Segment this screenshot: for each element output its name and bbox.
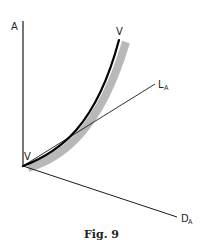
- label-v-bottom: V: [24, 151, 31, 162]
- diagram-figure: A V V L A D A: [0, 0, 203, 247]
- label-a: A: [11, 21, 18, 32]
- shaded-band: [28, 42, 126, 168]
- label-da-sub: A: [188, 218, 193, 226]
- label-la-sub: A: [164, 84, 169, 92]
- label-v-top: V: [116, 26, 123, 37]
- line-la: [23, 84, 155, 166]
- line-da: [23, 166, 177, 217]
- figure-caption: Fig. 9: [0, 228, 203, 241]
